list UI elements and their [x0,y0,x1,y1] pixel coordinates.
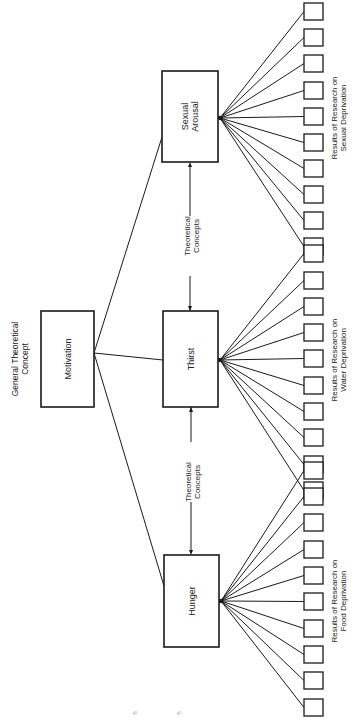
general-concept-caption: General TheoreticalConcept [10,322,30,397]
result-box [304,134,323,151]
result-box [304,514,323,531]
result-link-line [220,281,304,361]
result-link-line [220,360,304,412]
thirst-results-label: Results of Research onWater Deprivation [330,318,348,401]
hunger-results-label-line: Results of Research on [330,559,339,642]
general-concept-caption-line: Concept [20,343,30,375]
general-concept-caption-line: General Theoretical [10,322,20,397]
result-box [304,29,323,46]
thirst-label: Thirst [186,347,196,370]
result-box [304,324,323,341]
result-box [304,646,323,663]
sexual-arousal-label-line: Sexual [180,103,190,131]
thirst-results-label-line: Water Deprivation [339,328,348,392]
result-box [304,160,323,177]
motivation-to-sexual-arousal-line [94,137,162,353]
result-link-line [220,254,304,361]
result-link-line [220,118,304,221]
sexual-arousal-results-label-line: Results of Research on [330,76,339,159]
result-box [304,593,323,610]
result-link-line [220,117,304,119]
thirst-label-line: Thirst [186,347,196,370]
result-link-line [221,576,304,602]
result-link-line [220,118,304,169]
sexual-arousal-label-line: Arousal [190,101,200,132]
result-box [304,377,323,394]
result-link-line [220,64,304,119]
motivation-label-line: Motivation [63,338,73,379]
result-box [304,298,323,315]
result-link-line [221,497,304,602]
result-link-line [221,601,304,681]
result-box [304,672,323,689]
sexual-arousal-results-label: Results of Research onSexual Deprivation [330,76,348,159]
motivation-hierarchy-diagram: MotivationGeneral TheoreticalConceptSexu… [0,0,359,726]
result-link-line [221,601,304,629]
hunger-results-label-line: Food Deprivation [339,571,348,632]
result-link-line [221,471,304,602]
result-link-line [220,118,304,247]
hunger-results-label: Results of Research onFood Deprivation [330,559,348,642]
result-box [304,55,323,72]
result-box [304,186,323,203]
result-link-line [221,523,304,602]
result-link-line [220,118,304,143]
result-box [304,3,323,20]
result-box [304,350,323,367]
result-box [304,82,323,99]
theoretical-concepts-label: TheoreticalConcepts [184,462,202,502]
result-box [304,108,323,125]
result-box [304,620,323,637]
sexual-arousal-results-label-line: Sexual Deprivation [339,84,348,151]
motivation-to-thirst-line [94,353,163,360]
result-link-line [220,12,304,119]
theoretical-concepts-label-line: Theoretical [183,216,192,256]
result-box [304,403,323,420]
motivation-label: Motivation [63,338,73,379]
result-box [304,429,323,446]
result-link-line [221,601,304,602]
result-box [304,488,323,505]
result-box [304,462,323,479]
result-box [304,212,323,229]
motivation-to-hunger-line [94,353,164,586]
result-box [304,699,323,716]
sexual-arousal-label: SexualArousal [180,101,200,132]
result-link-line [220,307,304,361]
result-link-line [220,91,304,119]
thirst-results-label-line: Results of Research on [330,318,339,401]
theoretical-concepts-label-line: Concepts [192,219,201,253]
hunger-label: Hunger [187,586,197,616]
result-link-line [220,38,304,119]
result-box [304,272,323,289]
result-link-line [221,601,304,708]
result-link-line [220,360,304,386]
result-link-line [220,333,304,361]
result-boxes [304,3,323,716]
theoretical-concepts-label-line: Concepts [193,465,202,499]
result-link-line [220,360,304,465]
hunger-label-line: Hunger [187,586,197,616]
scan-mark: ℯ [133,709,137,716]
result-box [304,245,323,262]
result-link-line [221,550,304,602]
result-box [304,541,323,558]
result-link-line [221,601,304,655]
theoretical-concepts-label-line: Theoretical [184,462,193,502]
result-box [304,567,323,584]
scan-mark: ℯ [177,709,181,716]
result-link-line [220,359,304,361]
theoretical-concepts-label: TheoreticalConcepts [183,216,201,256]
